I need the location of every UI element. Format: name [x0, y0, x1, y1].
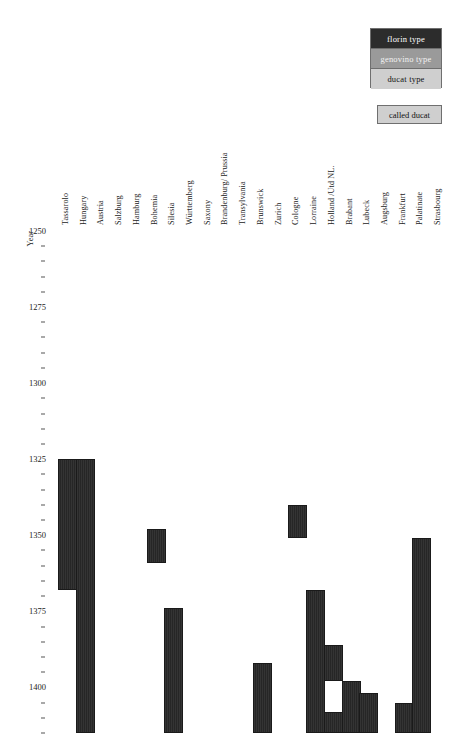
y-tick-mark	[41, 504, 45, 505]
y-tick-mark	[41, 641, 45, 642]
bar-lorraine[interactable]	[306, 590, 325, 733]
bar-frankfurt[interactable]	[395, 703, 414, 733]
y-tick-mark	[41, 474, 45, 475]
y-tick-mark	[41, 626, 45, 627]
y-tick-mark	[41, 733, 45, 734]
y-tick-mark	[41, 550, 45, 551]
x-category-label: Tassarolo	[61, 193, 70, 225]
chart-root: florin type genovino type ducat type cal…	[0, 0, 450, 748]
x-category-label: Zurich	[274, 203, 283, 225]
legend-label-ducat: ducat type	[387, 74, 424, 84]
x-category-label: Holland /Utd NL.	[327, 165, 336, 225]
y-tick-mark	[41, 580, 45, 581]
y-tick-mark	[41, 717, 45, 718]
bar-hungary[interactable]	[76, 459, 95, 733]
legend-label-called-ducat: called ducat	[389, 110, 430, 120]
y-tick-mark	[41, 702, 45, 703]
bar-brunswick[interactable]	[253, 663, 272, 733]
bar-holland-utd-nl[interactable]	[324, 645, 343, 682]
x-category-label: Cologne	[291, 197, 300, 225]
x-category-label: Augsburg	[380, 192, 389, 225]
y-tick-mark	[41, 520, 45, 521]
bar-bohemia[interactable]	[147, 529, 166, 562]
bar-lubeck[interactable]	[359, 693, 378, 733]
x-category-label: Strasbourg	[433, 189, 442, 225]
x-category-label: Brandenburg/ Prussia	[220, 152, 229, 225]
x-category-label: Hungary	[79, 196, 88, 225]
bar-brabant[interactable]	[342, 681, 361, 733]
legend-label-genovino: genovino type	[381, 54, 432, 64]
x-category-label: Transylvania	[238, 181, 247, 225]
y-tick-mark	[41, 656, 45, 657]
y-tick-mark	[41, 443, 45, 444]
y-tick-mark	[41, 352, 45, 353]
legend-types: florin type genovino type ducat type	[370, 28, 442, 88]
y-tick-mark	[41, 291, 45, 292]
bar-palatinate[interactable]	[412, 538, 431, 733]
bar-tassarolo[interactable]	[58, 459, 77, 590]
x-category-label: Lorraine	[309, 196, 318, 225]
legend-label-florin: florin type	[387, 34, 425, 44]
x-category-label: Hamburg	[132, 194, 141, 225]
y-tick-mark	[41, 337, 45, 338]
bar-holland-utd-nl[interactable]	[324, 712, 343, 733]
y-tick-mark	[41, 246, 45, 247]
y-tick-mark	[41, 413, 45, 414]
y-tick-mark	[41, 489, 45, 490]
y-tick-mark	[41, 398, 45, 399]
y-tick-mark	[41, 596, 45, 597]
x-category-label: Silesia	[167, 202, 176, 225]
y-tick-mark	[41, 276, 45, 277]
bar-silesia[interactable]	[164, 608, 183, 733]
y-tick-mark	[41, 672, 45, 673]
legend-item-florin[interactable]: florin type	[371, 29, 441, 49]
y-tick-label: 1375	[10, 606, 46, 616]
legend-item-genovino[interactable]: genovino type	[371, 49, 441, 69]
y-tick-label: 1250	[10, 226, 46, 236]
y-tick-mark	[41, 565, 45, 566]
legend-item-ducat[interactable]: ducat type	[371, 69, 441, 89]
y-tick-mark	[41, 261, 45, 262]
y-tick-mark	[41, 322, 45, 323]
bar-cologne[interactable]	[288, 505, 307, 538]
y-tick-mark	[41, 367, 45, 368]
x-category-label: Saxony	[203, 200, 212, 225]
y-tick-label: 1350	[10, 530, 46, 540]
x-category-label: Austria	[96, 200, 105, 225]
legend-called-ducat[interactable]: called ducat	[377, 105, 442, 124]
x-category-label: Brunswick	[256, 189, 265, 225]
x-category-label: Salzburg	[114, 195, 123, 225]
x-category-label: Frankfurt	[398, 193, 407, 225]
x-category-label: Württemberg	[185, 180, 194, 225]
x-category-label: Bohemia	[150, 195, 159, 225]
x-category-label: Lubeck	[362, 200, 371, 225]
y-tick-label: 1275	[10, 302, 46, 312]
y-tick-label: 1400	[10, 682, 46, 692]
x-category-label: Palatinate	[415, 192, 424, 225]
y-tick-mark	[41, 428, 45, 429]
x-category-label: Brabant	[345, 198, 354, 225]
y-tick-label: 1300	[10, 378, 46, 388]
y-tick-label: 1325	[10, 454, 46, 464]
